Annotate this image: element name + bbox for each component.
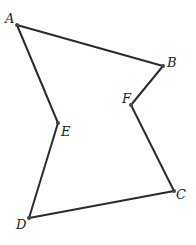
label-B: B	[166, 55, 177, 70]
label-F: F	[121, 91, 132, 106]
label-A: A	[4, 11, 14, 26]
label-D: D	[15, 217, 27, 232]
vertex-E	[56, 121, 60, 125]
vertex-A	[15, 23, 19, 27]
vertex-D	[27, 216, 31, 220]
label-E: E	[60, 124, 71, 139]
vertex-B	[161, 64, 165, 68]
label-C: C	[176, 187, 186, 202]
polygon-ABFCDE	[17, 25, 174, 218]
polygon-diagram: A B C D E F	[0, 0, 196, 245]
